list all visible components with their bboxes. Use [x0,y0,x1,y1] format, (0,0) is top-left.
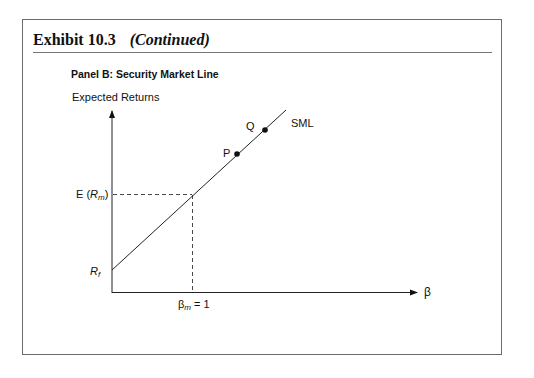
y-axis-label: Expected Returns [72,91,160,103]
point-q [262,127,268,133]
e-rm-label: E (Rm) [76,188,108,202]
x-axis-label: β [424,285,431,299]
q-label: Q [246,120,255,132]
sml-chart: Expected Returns E (Rm) Rf βm = 1 β SML … [0,0,534,378]
sml-label: SML [291,117,314,129]
beta-m-label: βm = 1 [178,298,210,312]
p-label: P [223,147,230,159]
point-p [234,151,240,157]
rf-label: Rf [90,265,101,279]
sml-line [112,110,286,270]
